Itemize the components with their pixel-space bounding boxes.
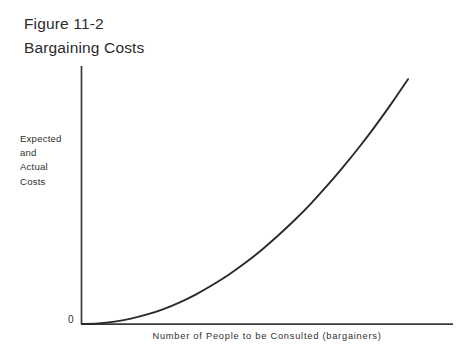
- cost-curve: [82, 79, 408, 324]
- y-axis-label-line: Costs: [20, 175, 78, 189]
- y-axis-label-line: Expected: [20, 132, 78, 146]
- y-axis-label: Expected and Actual Costs: [20, 132, 78, 189]
- figure-container: Figure 11-2 Bargaining Costs Expected an…: [0, 0, 474, 347]
- x-axis-label: Number of People to be Consulted (bargai…: [81, 331, 453, 342]
- y-axis-label-line: Actual: [20, 160, 78, 174]
- origin-tick-label: 0: [68, 315, 74, 325]
- y-axis-label-line: and: [20, 146, 78, 160]
